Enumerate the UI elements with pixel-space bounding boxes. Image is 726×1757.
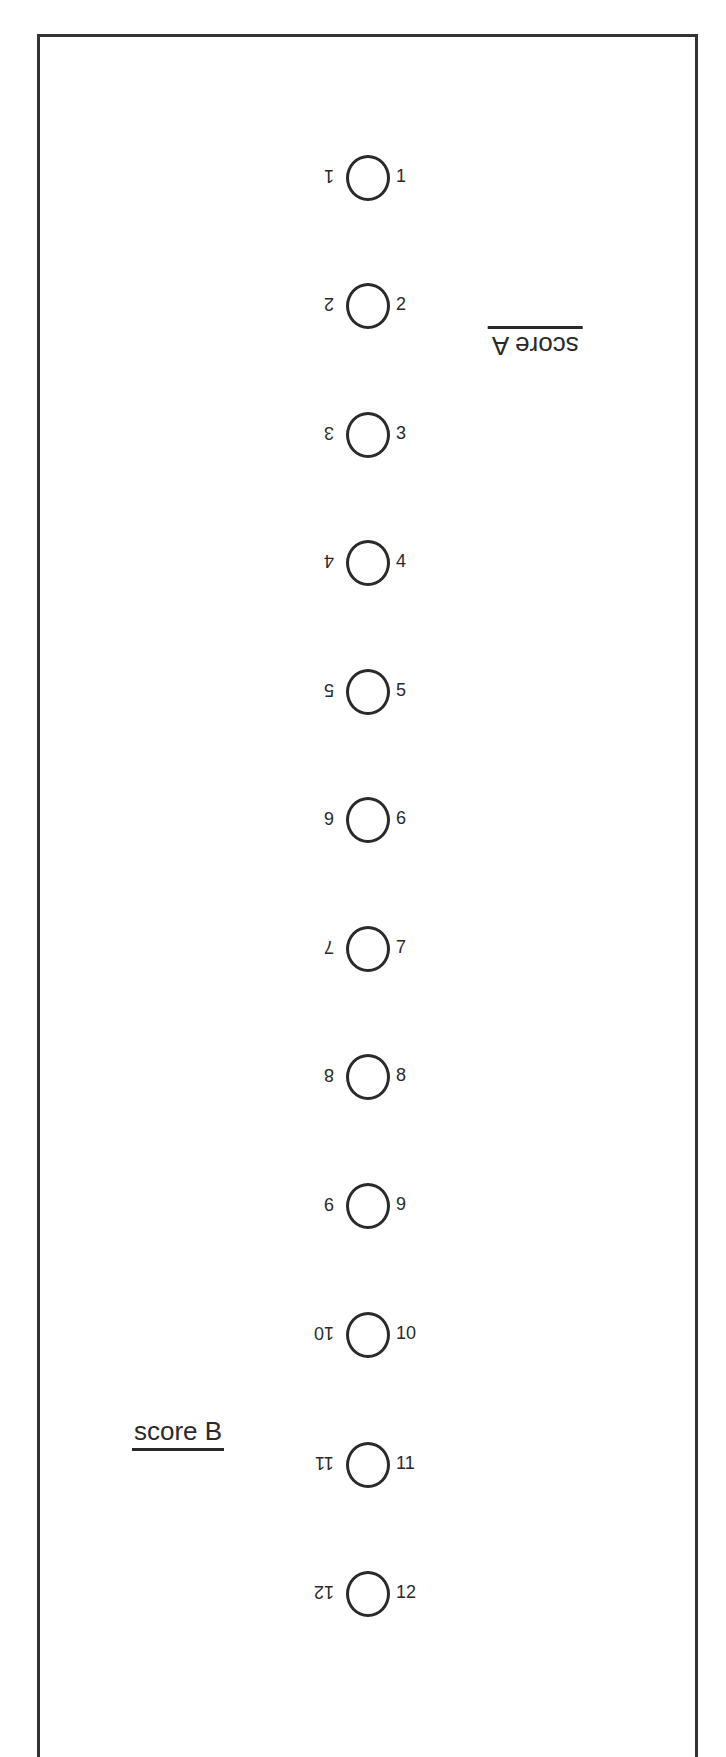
row-label-right: 3 [396,422,406,444]
row-label-left: 10 [314,1322,334,1344]
row-label-left: 4 [324,550,334,572]
score-a-label: score A [488,326,583,361]
row-label-right: 8 [396,1064,406,1086]
row-label-left: 12 [314,1581,334,1603]
row-label-right: 5 [396,679,406,701]
bubble-4[interactable] [346,540,390,586]
score-row-5: 5 5 [0,669,726,713]
score-row-11: 11 11 [0,1442,726,1486]
score-row-7: 7 7 [0,926,726,970]
row-label-right: 1 [396,165,406,187]
row-label-right: 7 [396,936,406,958]
row-label-right: 2 [396,293,406,315]
row-label-right: 4 [396,550,406,572]
score-row-10: 10 10 [0,1312,726,1356]
bubble-12[interactable] [346,1571,390,1617]
score-row-3: 3 3 [0,412,726,456]
bubble-7[interactable] [346,926,390,972]
row-label-left: 6 [324,807,334,829]
score-row-8: 8 8 [0,1054,726,1098]
score-row-1: 1 1 [0,155,726,199]
bubble-9[interactable] [346,1183,390,1229]
score-row-9: 9 9 [0,1183,726,1227]
row-label-right: 12 [396,1581,416,1603]
row-label-right: 9 [396,1193,406,1215]
bubble-1[interactable] [346,155,390,201]
row-label-left: 3 [324,422,334,444]
row-label-right: 11 [396,1452,415,1474]
bubble-5[interactable] [346,669,390,715]
score-row-4: 4 4 [0,540,726,584]
row-label-left: 5 [324,679,334,701]
row-label-right: 10 [396,1322,416,1344]
row-label-left: 9 [324,1193,334,1215]
score-row-2: 2 2 [0,283,726,327]
score-row-12: 12 12 [0,1571,726,1615]
bubble-6[interactable] [346,797,390,843]
score-row-6: 6 6 [0,797,726,841]
bubble-8[interactable] [346,1054,390,1100]
row-label-left: 8 [324,1064,334,1086]
row-label-left: 1 [324,165,334,187]
row-label-left: 2 [324,293,334,315]
row-label-left: 7 [324,936,334,958]
bubble-2[interactable] [346,283,390,329]
bubble-3[interactable] [346,412,390,458]
bubble-11[interactable] [346,1442,390,1488]
row-label-right: 6 [396,807,406,829]
bubble-10[interactable] [346,1312,390,1358]
row-label-left: 11 [315,1452,334,1474]
